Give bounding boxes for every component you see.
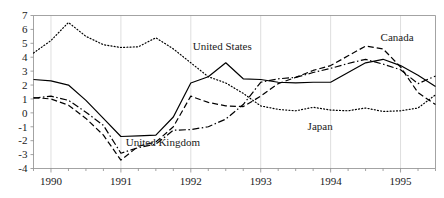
y-tick-label: 5 xyxy=(22,37,28,49)
y-tick-label: 6 xyxy=(22,23,28,35)
y-tick-label: 0 xyxy=(22,107,28,119)
y-tick-label: 2 xyxy=(22,79,28,91)
y-tick-label: -2 xyxy=(18,134,27,146)
series-label-canada: Canada xyxy=(381,31,414,43)
series-label-japan: Japan xyxy=(308,120,334,132)
y-tick-label: -3 xyxy=(18,148,28,160)
y-tick-label: 1 xyxy=(22,93,28,105)
series-label-united-kingdom: United Kingdom xyxy=(126,136,201,148)
y-tick-label: 3 xyxy=(22,65,28,77)
y-tick-label: -1 xyxy=(18,121,27,133)
series-label-united-states: United States xyxy=(193,40,252,52)
y-tick-label: 4 xyxy=(22,51,28,63)
chart-canvas: 76543210-1-2-3-4 19901991199219931994199… xyxy=(0,0,444,198)
x-tick-label: 1995 xyxy=(390,175,413,187)
x-tick-label: 1991 xyxy=(110,175,132,187)
line-chart: 76543210-1-2-3-4 19901991199219931994199… xyxy=(0,0,444,198)
x-tick-label: 1990 xyxy=(40,175,63,187)
y-tick-label: 7 xyxy=(22,9,28,21)
x-tick-label: 1992 xyxy=(180,175,202,187)
x-tick-label: 1993 xyxy=(250,175,273,187)
y-tick-label: -4 xyxy=(18,162,28,174)
x-tick-label: 1994 xyxy=(320,175,343,187)
